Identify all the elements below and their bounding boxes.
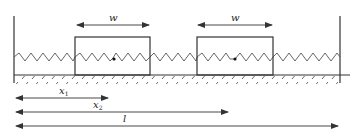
block-1-center-dot bbox=[112, 57, 115, 60]
spring-mass-diagram: w w x1 x2 l bbox=[0, 0, 359, 136]
spring-block-1 bbox=[75, 53, 150, 61]
block-2-width-label: w bbox=[231, 12, 240, 23]
spring-right bbox=[273, 53, 340, 61]
l-label: l bbox=[123, 113, 126, 124]
block-1 bbox=[75, 37, 150, 75]
spring-left bbox=[14, 53, 75, 61]
x2-label: x2 bbox=[93, 99, 103, 111]
ground-hatching bbox=[16, 76, 338, 84]
spring-middle bbox=[150, 53, 197, 61]
x1-label: x1 bbox=[59, 85, 68, 97]
block-1-width-label: w bbox=[109, 12, 118, 23]
block-2-center-dot bbox=[233, 57, 236, 60]
